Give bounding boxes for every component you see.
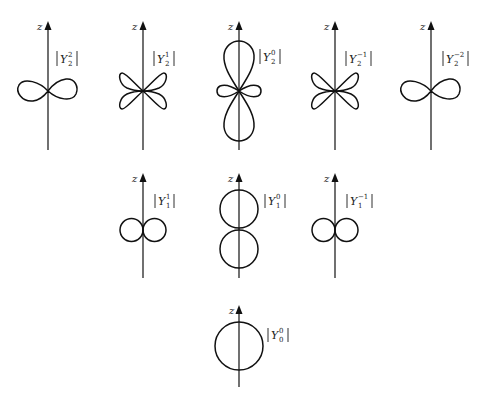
arrowhead-icon <box>45 21 52 30</box>
panel-y1-0: z Y 0 1 <box>220 173 285 278</box>
svg-text:2: 2 <box>165 60 169 68</box>
z-axis-label: z <box>131 21 138 32</box>
y1-minus1-right-lobe-curve <box>335 219 358 242</box>
y1-1-right-lobe-curve <box>143 219 166 242</box>
z-axis-label: z <box>228 305 235 316</box>
panel-y2-1: z Y 1 2 <box>120 21 174 150</box>
y1-minus1-left-lobe-curve <box>312 219 335 242</box>
svg-text:0: 0 <box>271 49 275 57</box>
svg-text:−1: −1 <box>358 193 368 201</box>
svg-text:2: 2 <box>357 60 361 68</box>
label-y2-1: Y 1 2 <box>154 51 174 68</box>
label-y2-0: Y 0 2 <box>260 49 280 66</box>
panel-y2-0: z Y 0 2 <box>217 21 280 150</box>
arrowhead-icon <box>236 305 243 314</box>
svg-text:1: 1 <box>165 51 169 59</box>
arrowhead-icon <box>140 21 147 30</box>
arrowhead-icon <box>332 173 339 182</box>
label-y1-0: Y 0 1 <box>265 193 285 210</box>
label-y1-minus1: Y −1 1 <box>347 193 372 210</box>
svg-text:−1: −1 <box>357 51 367 59</box>
z-axis-label: z <box>227 21 234 32</box>
panel-y0-0: z Y 0 0 <box>215 305 288 387</box>
arrowhead-icon <box>236 173 243 182</box>
arrowhead-icon <box>236 21 243 30</box>
z-axis-label: z <box>131 173 138 184</box>
panel-y1-1: z Y 1 1 <box>120 173 174 278</box>
svg-text:1: 1 <box>276 202 280 210</box>
svg-text:0: 0 <box>279 336 283 344</box>
arrowhead-icon <box>428 21 435 30</box>
z-axis-label: z <box>227 173 234 184</box>
y1-1-left-lobe-curve <box>120 219 143 242</box>
z-axis-label: z <box>323 173 330 184</box>
label-y2-2: Y 2 2 <box>57 51 77 68</box>
panel-y2-minus2: z Y −2 2 <box>401 21 468 150</box>
svg-text:2: 2 <box>68 60 72 68</box>
svg-text:1: 1 <box>166 202 170 210</box>
z-axis-label: z <box>419 21 426 32</box>
svg-text:1: 1 <box>166 193 170 201</box>
arrowhead-icon <box>140 173 147 182</box>
panel-y2-minus1: z Y −1 2 <box>312 21 371 150</box>
label-y2-minus1: Y −1 2 <box>346 51 371 68</box>
spherical-harmonics-figure: z Y 2 2 z Y 1 2 z Y <box>0 0 486 401</box>
svg-text:0: 0 <box>279 327 283 335</box>
label-y0-0: Y 0 0 <box>268 327 288 344</box>
z-axis-label: z <box>36 21 43 32</box>
svg-text:2: 2 <box>271 58 275 66</box>
svg-text:2: 2 <box>454 60 458 68</box>
svg-text:2: 2 <box>68 51 72 59</box>
z-axis-label: z <box>323 21 330 32</box>
arrowhead-icon <box>332 21 339 30</box>
panel-y2-2: z Y 2 2 <box>18 21 77 150</box>
svg-text:−2: −2 <box>454 51 464 59</box>
panel-y1-minus1: z Y −1 1 <box>312 173 372 278</box>
svg-text:1: 1 <box>358 202 362 210</box>
label-y2-minus2: Y −2 2 <box>443 51 468 68</box>
label-y1-1: Y 1 1 <box>155 193 174 210</box>
svg-text:0: 0 <box>276 193 280 201</box>
